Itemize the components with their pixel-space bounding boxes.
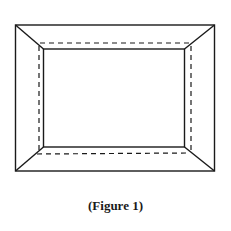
miter-line-top-right [185,25,215,49]
dashed-rectangle [37,43,191,154]
dashed-line-bottom [37,153,187,154]
miter-line-top-left [16,25,44,49]
miter-line-bottom-left [16,147,44,171]
figure-caption: (Figure 1) [0,198,231,214]
miter-line-bottom-right [185,147,215,171]
frame-diagram [0,0,231,231]
inner-rectangle [44,49,185,147]
